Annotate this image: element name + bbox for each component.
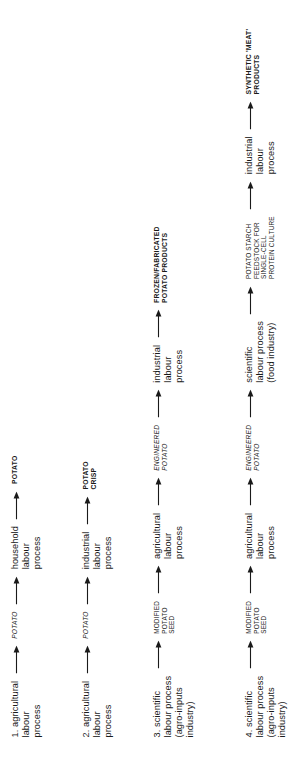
right-arrow-icon [245,286,255,314]
final-product-node: POTATOCRISP [80,461,97,489]
right-arrow-icon [11,645,21,673]
node-line: process [102,531,113,569]
labour-process-node: scientificlabour process(food industry) [243,321,276,383]
node-line: POTATO [81,461,89,489]
node-line: POTATO [10,611,18,639]
right-arrow-icon [82,576,92,604]
final-product-node: POTATO [9,455,18,483]
node-line: labour [162,512,173,558]
labour-process-node: agriculturallabourprocess [151,512,184,558]
right-arrow-icon [245,565,255,593]
node-line: SEED [167,600,175,633]
node-line: POTATO [252,600,260,633]
node-line: POTATO [160,424,168,470]
right-arrow-icon [245,640,255,668]
node-line: process [265,136,276,174]
right-arrow-icon [153,640,163,668]
node-line: POTATO [81,611,89,639]
node-line: industry) [276,675,287,737]
intermediate-good-node: POTATO [80,611,89,639]
node-line: industrial [80,531,91,569]
node-line: labour [162,344,173,382]
node-line: labour process [162,675,173,737]
right-arrow-icon [245,181,255,209]
intermediate-good-node: MODIFIEDPOTATOSEED [243,600,267,633]
right-arrow-icon [153,565,163,593]
labour-process-node: industriallabourprocess [151,344,184,382]
node-line: ENGINEERED [244,424,252,470]
labour-process-node: 1. agriculturallabourprocess [9,680,42,737]
right-arrow-icon [11,576,21,604]
intermediate-good-node: POTATO STARCHFEEDSTOCK FORSINGLE-CELLPRO… [243,216,274,279]
node-line: process [173,512,184,558]
node-line: process [31,526,42,569]
node-line: (agro-inputs [173,675,184,737]
node-line: PRODUCTS [252,28,260,94]
right-arrow-icon [82,496,92,524]
node-line: process [265,512,276,558]
node-line: labour [91,680,102,737]
node-line: POTATO [160,600,168,633]
node-line: CRISP [89,461,97,489]
process-chain-3: 3. scientificlabour process(agro-inputsi… [151,226,194,737]
node-line: agricultural [243,512,254,558]
node-line: FEEDSTOCK FOR [252,216,260,279]
right-arrow-icon [153,309,163,337]
right-arrow-icon [153,389,163,417]
right-arrow-icon [245,389,255,417]
node-line: industry) [184,675,195,737]
node-line: PROTEIN CULTURE [267,216,275,279]
right-arrow-icon [153,477,163,505]
node-line: ENGINEERED [152,424,160,470]
right-arrow-icon [245,101,255,129]
node-line: labour [254,512,265,558]
node-line: MODIFIED [152,600,160,633]
node-line: labour [254,136,265,174]
intermediate-good-node: ENGINEEREDPOTATO [243,424,260,470]
node-line: (food industry) [265,321,276,383]
final-product-node: FROZEN/FABRICATEDPOTATO PRODUCTS [151,226,168,303]
node-line: industrial [151,344,162,382]
labour-process-node: 4. scientificlabour process(agro-inputsi… [243,675,286,737]
node-line: 1. agricultural [9,680,20,737]
process-chain-2: 2. agriculturallabourprocessPOTATOindust… [80,461,113,737]
node-line: SYNTHETIC 'MEAT' [244,28,252,94]
node-line: SEED [259,600,267,633]
node-line: (agro-inputs [265,675,276,737]
process-chain-4: 4. scientificlabour process(agro-inputsi… [243,28,286,737]
node-line: process [173,344,184,382]
node-line: process [31,680,42,737]
node-line: labour [20,680,31,737]
intermediate-good-node: POTATO [9,611,18,639]
labour-process-node: agriculturallabourprocess [243,512,276,558]
node-line: labour [20,526,31,569]
node-line: 3. scientific [151,675,162,737]
node-line: MODIFIED [244,600,252,633]
labour-process-node: industriallabourprocess [243,136,276,174]
node-line: FROZEN/FABRICATED [152,226,160,303]
node-line: agricultural [151,512,162,558]
right-arrow-icon [245,477,255,505]
process-chain-1: 1. agriculturallabourprocessPOTATOhouseh… [9,455,42,737]
labour-process-node: industriallabourprocess [80,531,113,569]
node-line: 4. scientific [243,675,254,737]
node-line: POTATO STARCH [244,216,252,279]
final-product-node: SYNTHETIC 'MEAT'PRODUCTS [243,28,260,94]
right-arrow-icon [82,645,92,673]
diagram-stage: 1. agriculturallabourprocessPOTATOhouseh… [0,0,303,765]
labour-process-node: 3. scientificlabour process(agro-inputsi… [151,675,194,737]
node-line: POTATO [252,424,260,470]
node-line: labour process [254,321,265,383]
node-line: POTATO PRODUCTS [160,226,168,303]
intermediate-good-node: MODIFIEDPOTATOSEED [151,600,175,633]
node-line: industrial [243,136,254,174]
labour-process-node: householdlabourprocess [9,526,42,569]
node-line: labour process [254,675,265,737]
labour-process-node: 2. agriculturallabourprocess [80,680,113,737]
right-arrow-icon [11,491,21,519]
node-line: POTATO [10,455,18,483]
intermediate-good-node: ENGINEEREDPOTATO [151,424,168,470]
node-line: labour [91,531,102,569]
node-line: household [9,526,20,569]
flow-diagram: 1. agriculturallabourprocessPOTATOhouseh… [0,0,303,765]
